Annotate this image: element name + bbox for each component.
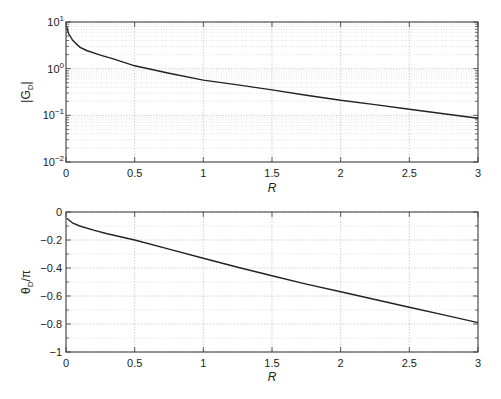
magnitude-grid xyxy=(66,22,478,162)
phase-ticks: 00.511.522.53−1−0.8−0.6−0.4−0.20 xyxy=(40,206,481,369)
y-tick-label: −0.4 xyxy=(40,262,62,274)
x-tick-label: 0.5 xyxy=(127,167,142,179)
magnitude-ticks: 00.511.522.5310−210−1100101 xyxy=(43,14,481,179)
y-tick-label: −0.8 xyxy=(40,318,62,330)
x-tick-label: 0.5 xyxy=(127,357,142,369)
y-tick-label: 100 xyxy=(47,61,64,75)
phase-grid xyxy=(66,212,478,352)
y-tick-label: −0.2 xyxy=(40,234,62,246)
y-tick-label: 10−2 xyxy=(43,154,65,168)
x-tick-label: 2.5 xyxy=(402,167,417,179)
magnitude-plot: 00.511.522.5310−210−1100101 R |GD| xyxy=(19,14,481,195)
y-tick-label: 101 xyxy=(47,14,64,28)
x-tick-label: 2 xyxy=(338,167,344,179)
x-tick-label: 2.5 xyxy=(402,357,417,369)
phase-plot: 00.511.522.53−1−0.8−0.6−0.4−0.20 R θD/π xyxy=(19,206,481,384)
x-tick-label: 1 xyxy=(200,357,206,369)
x-tick-label: 2 xyxy=(338,357,344,369)
phase-ylabel: θD/π xyxy=(19,270,35,294)
y-tick-label: −0.6 xyxy=(40,290,62,302)
y-tick-label: 10−1 xyxy=(43,107,65,121)
x-tick-label: 1.5 xyxy=(264,357,279,369)
x-tick-label: 1 xyxy=(200,167,206,179)
y-tick-label: −1 xyxy=(49,346,62,358)
x-tick-label: 0 xyxy=(63,167,69,179)
magnitude-ylabel: |GD| xyxy=(19,81,35,102)
figure: 00.511.522.5310−210−1100101 R |GD| 00.51… xyxy=(0,0,501,399)
x-tick-label: 0 xyxy=(63,357,69,369)
x-tick-label: 3 xyxy=(475,357,481,369)
phase-xlabel: R xyxy=(268,370,277,384)
magnitude-xlabel: R xyxy=(268,181,277,195)
y-tick-label: 0 xyxy=(56,206,62,218)
x-tick-label: 3 xyxy=(475,167,481,179)
x-tick-label: 1.5 xyxy=(264,167,279,179)
